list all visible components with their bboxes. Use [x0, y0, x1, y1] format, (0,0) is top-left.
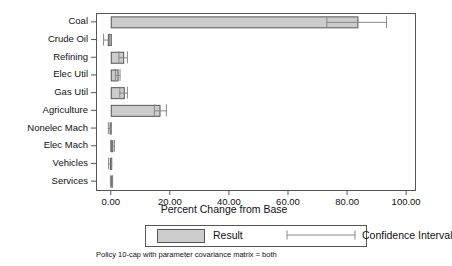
- bar-agriculture: [111, 105, 160, 116]
- chart-caption: Policy 10-cap with parameter covariance …: [96, 250, 277, 259]
- legend-ci-marker: [285, 229, 357, 241]
- y-label-agriculture: Agriculture: [43, 105, 88, 115]
- y-label-refining: Refining: [53, 52, 88, 62]
- y-label-gas-util: Gas Util: [54, 87, 88, 97]
- y-label-crude-oil: Crude Oil: [48, 34, 88, 44]
- y-label-vehicles: Vehicles: [53, 158, 88, 168]
- x-axis-title: Percent Change from Base: [0, 203, 448, 215]
- y-label-elec-util: Elec Util: [53, 69, 88, 79]
- bar-coal: [111, 17, 358, 28]
- y-label-services: Services: [52, 176, 88, 186]
- legend-label-confidence-interval: Confidence Interval: [362, 229, 452, 241]
- legend-swatch-result: [157, 229, 205, 243]
- y-label-nonelec-mach: Nonelec Mach: [27, 123, 88, 133]
- y-label-coal: Coal: [68, 16, 88, 26]
- legend-label-result: Result: [213, 229, 243, 241]
- y-label-elec-mach: Elec Mach: [44, 140, 88, 150]
